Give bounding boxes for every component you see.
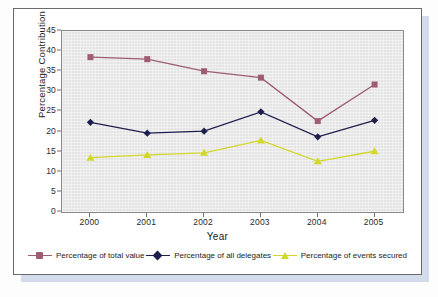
x-axis-tick-mark (260, 213, 261, 217)
y-axis-tick-label: 5 (51, 186, 56, 196)
y-axis-tick-label: 35 (46, 65, 56, 75)
legend-item-events-secured[interactable]: Percentage of events secured (273, 251, 407, 260)
series-line (90, 140, 374, 161)
data-point-marker (258, 75, 264, 81)
y-axis-tick-label: 20 (46, 126, 56, 136)
data-point-marker (371, 117, 378, 124)
y-axis-tick-label: 45 (46, 25, 56, 35)
data-point-marker (87, 54, 93, 60)
x-axis-tick-label: 2000 (80, 217, 100, 227)
y-axis-tick-label: 30 (46, 85, 56, 95)
y-axis-tick-label: 15 (46, 146, 56, 156)
series-line (90, 57, 374, 121)
x-axis-tick-mark (317, 213, 318, 217)
legend-swatch-triangle-icon (273, 251, 297, 260)
data-point-marker (315, 118, 321, 124)
y-axis: 051015202530354045 (14, 23, 61, 220)
data-point-marker (371, 147, 379, 154)
line-chart: Percentage Contribution 0510152025303540… (14, 9, 421, 274)
data-point-marker (200, 128, 207, 135)
data-point-marker (144, 56, 150, 62)
legend-swatch-square-icon (28, 251, 52, 260)
y-axis-tick-label: 25 (46, 105, 56, 115)
x-axis-tick-mark (203, 213, 204, 217)
series-lines (62, 31, 403, 212)
x-axis-tick-label: 2005 (364, 217, 384, 227)
legend-swatch-diamond-icon (146, 251, 170, 260)
x-axis-tick-mark (89, 213, 90, 217)
x-axis-tick-label: 2001 (136, 217, 156, 227)
x-axis-tick-mark (146, 213, 147, 217)
x-axis-tick-label: 2004 (307, 217, 327, 227)
legend-label-total-value: Percentage of total value (56, 251, 145, 260)
legend-label-events-secured: Percentage of events secured (301, 251, 407, 260)
figure-frame: Percentage Contribution 0510152025303540… (13, 8, 422, 275)
data-point-marker (314, 133, 321, 140)
x-axis-tick-mark (374, 213, 375, 217)
data-point-marker (257, 136, 265, 143)
plot-area (61, 30, 404, 213)
y-axis-tick-label: 0 (51, 206, 56, 216)
legend-item-total-value[interactable]: Percentage of total value (28, 251, 145, 260)
y-axis-tick-label: 10 (46, 166, 56, 176)
data-point-marker (257, 108, 264, 115)
x-axis-tick-label: 2003 (250, 217, 270, 227)
data-point-marker (87, 119, 94, 126)
data-point-marker (144, 130, 151, 137)
data-point-marker (201, 68, 207, 74)
x-axis-tick-label: 2002 (193, 217, 213, 227)
data-point-marker (372, 81, 378, 87)
y-axis-tick-label: 40 (46, 45, 56, 55)
chart-legend: Percentage of total value Percentage of … (22, 251, 413, 260)
legend-item-all-delegates[interactable]: Percentage of all delegates (146, 251, 271, 260)
legend-label-all-delegates: Percentage of all delegates (174, 251, 271, 260)
series-line (90, 112, 374, 137)
x-axis-title: Year (14, 231, 421, 242)
